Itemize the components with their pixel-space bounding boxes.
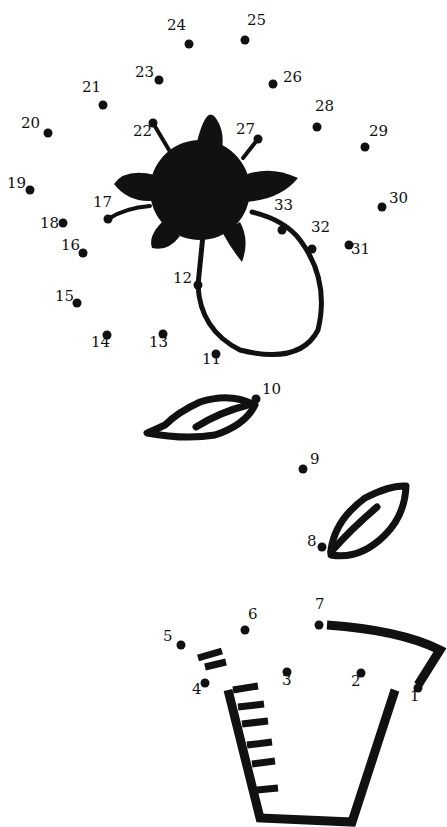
dot-label: 26: [283, 70, 302, 85]
dot-label: 4: [192, 682, 202, 697]
dot-20: [44, 129, 53, 138]
dot-label: 1: [410, 689, 420, 704]
dot-label: 10: [262, 382, 281, 397]
dot-label: 13: [149, 335, 168, 350]
dot-12: [194, 281, 203, 290]
dot-label: 31: [351, 242, 370, 257]
dot-23: [155, 76, 164, 85]
dot-label: 19: [7, 176, 26, 191]
dot-6: [241, 626, 250, 635]
dot-label: 5: [163, 629, 173, 644]
dot-25: [241, 36, 250, 45]
dot-label: 14: [91, 335, 110, 350]
dot-8: [318, 543, 327, 552]
dot-label: 30: [389, 191, 408, 206]
dot-label: 22: [133, 124, 152, 139]
dot-7: [315, 621, 324, 630]
dot-to-dot-worksheet: 1234567891011121314151617181920212223242…: [0, 0, 447, 827]
dot-label: 20: [21, 116, 40, 131]
dot-30: [378, 203, 387, 212]
dot-label: 16: [61, 238, 80, 253]
dot-label: 12: [173, 271, 192, 286]
dot-label: 29: [369, 124, 388, 139]
dot-label: 32: [311, 220, 330, 235]
leaf-icon: [147, 398, 406, 556]
dot-label: 9: [310, 452, 320, 467]
dot-17: [104, 215, 113, 224]
dot-label: 33: [274, 198, 293, 213]
dot-28: [313, 123, 322, 132]
pot-icon: [198, 625, 440, 822]
dot-label: 6: [248, 607, 258, 622]
dot-label: 17: [93, 195, 112, 210]
dot-label: 2: [351, 674, 361, 689]
dot-29: [361, 143, 370, 152]
dot-label: 27: [236, 122, 255, 137]
dot-label: 18: [40, 216, 59, 231]
dot-19: [26, 186, 35, 195]
dot-label: 7: [315, 597, 325, 612]
dot-label: 3: [282, 673, 292, 688]
dot-21: [99, 101, 108, 110]
dot-24: [185, 40, 194, 49]
dot-label: 25: [247, 13, 266, 28]
dot-label: 15: [55, 289, 74, 304]
dot-5: [177, 641, 186, 650]
dot-label: 23: [135, 65, 154, 80]
dot-10: [252, 395, 261, 404]
dot-9: [299, 465, 308, 474]
dot-4: [201, 679, 210, 688]
dot-18: [59, 219, 68, 228]
dot-label: 11: [202, 352, 221, 367]
dot-33: [278, 226, 287, 235]
dot-label: 21: [82, 80, 101, 95]
dot-32: [308, 245, 317, 254]
dot-label: 28: [315, 99, 334, 114]
dot-label: 24: [167, 18, 186, 33]
dot-26: [269, 80, 278, 89]
dot-label: 8: [307, 534, 317, 549]
